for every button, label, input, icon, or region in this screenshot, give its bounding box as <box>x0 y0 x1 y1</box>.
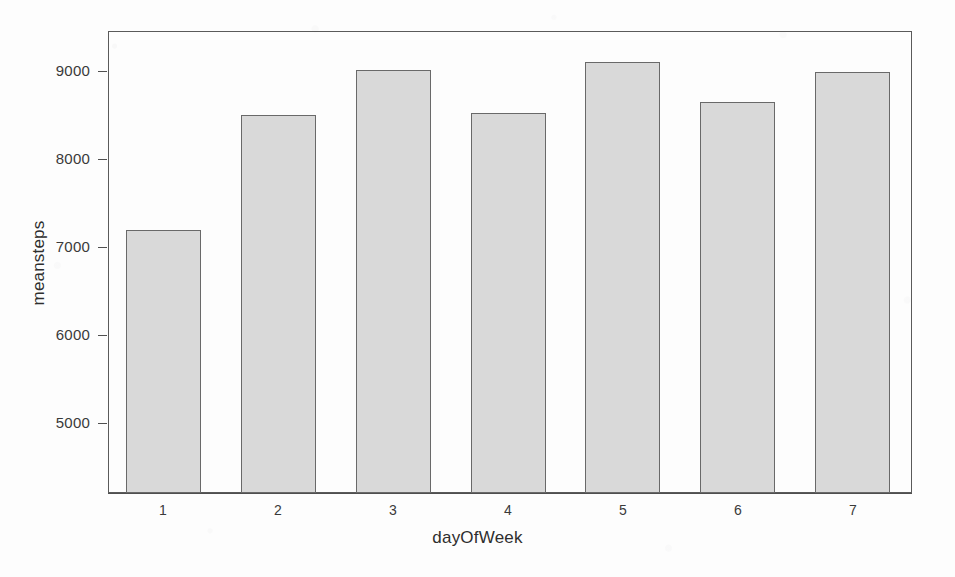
y-axis-tick-7000 <box>98 247 107 248</box>
bars-layer <box>0 0 955 577</box>
y-axis-tick-label-5000: 5000 <box>8 414 90 431</box>
y-axis-tick-9000 <box>98 71 107 72</box>
x-axis-line <box>108 493 912 494</box>
x-axis-title: dayOfWeek <box>0 528 955 548</box>
bar-chart-figure: 50006000700080009000 1234567 dayOfWeek m… <box>0 0 955 577</box>
y-axis-tick-label-8000: 8000 <box>8 150 90 167</box>
y-axis-tick-8000 <box>98 159 107 160</box>
y-axis-title: meansteps <box>29 193 49 333</box>
x-axis-tick-label-4: 4 <box>478 502 538 518</box>
y-axis-tick-label-9000: 9000 <box>8 62 90 79</box>
bar-2 <box>241 115 316 493</box>
x-axis-tick-label-2: 2 <box>248 502 308 518</box>
bar-6 <box>700 102 775 493</box>
bar-4 <box>471 113 546 493</box>
y-axis-tick-label-7000: 7000 <box>8 238 90 255</box>
x-axis-tick-label-7: 7 <box>823 502 883 518</box>
x-axis-tick-label-5: 5 <box>593 502 653 518</box>
y-axis-tick-6000 <box>98 335 107 336</box>
y-axis-tick-label-6000: 6000 <box>8 326 90 343</box>
bar-5 <box>585 62 660 493</box>
bar-1 <box>126 230 201 493</box>
x-axis-tick-label-6: 6 <box>708 502 768 518</box>
bar-7 <box>815 72 890 493</box>
y-axis-tick-5000 <box>98 423 107 424</box>
x-axis-tick-label-1: 1 <box>133 502 193 518</box>
x-axis-tick-label-3: 3 <box>363 502 423 518</box>
bar-3 <box>356 70 431 493</box>
